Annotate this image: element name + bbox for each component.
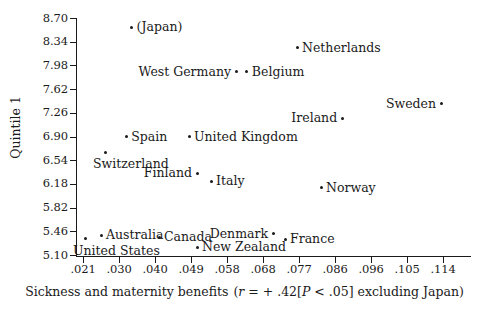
data-point-label: Spain [131,131,167,144]
data-point-marker [103,150,108,155]
y-tick-mark [70,65,76,66]
x-axis-correlation-stat: (r = + .42[P < .05] excluding Japan) [233,284,463,299]
data-point-label: Finland [144,167,192,180]
y-tick-label: 8.70 [28,13,68,25]
y-tick-mark [70,89,76,90]
data-point-marker [129,25,134,30]
y-tick-label: 6.54 [28,155,68,167]
x-tick-label: .021 [63,264,103,276]
data-point-marker [195,245,200,250]
y-tick-label: 7.26 [28,107,68,119]
y-tick-mark [70,160,76,161]
data-point-marker [340,116,345,121]
y-tick-label: 5.10 [28,250,68,262]
data-point-label: Sweden [386,98,436,111]
y-tick-label: 5.46 [28,226,68,238]
data-point-marker [195,171,200,176]
data-point-label: Norway [326,182,376,195]
data-point-marker [295,45,300,50]
y-tick-mark [70,137,76,138]
x-tick-label: .030 [99,264,139,276]
x-tick-label: .105 [387,264,427,276]
data-point-label: United Kingdom [194,131,298,144]
y-tick-label: 8.34 [28,36,68,48]
y-tick-mark [70,113,76,114]
y-tick-label: 7.98 [28,60,68,72]
data-point-label: Italy [216,175,244,188]
x-axis-caption: Sickness and maternity benefits(r = + .4… [0,284,489,299]
data-point-marker [439,101,444,106]
x-tick-label: .096 [351,264,391,276]
y-tick-mark [70,184,76,185]
data-point-marker [319,185,324,190]
data-point-marker [187,134,192,139]
scatter-plot-figure: Quintile 1 8.708.347.987.627.266.906.546… [0,0,489,316]
y-tick-mark [70,42,76,43]
y-tick-label: 5.82 [28,202,68,214]
data-point-label: (Japan) [137,21,183,34]
y-tick-mark [70,18,76,19]
data-point-marker [124,134,129,139]
data-point-marker [234,69,239,74]
data-point-label: Netherlands [302,42,381,55]
y-tick-label: 6.90 [28,131,68,143]
data-point-label: United States [73,245,160,258]
x-tick-label: .077 [279,264,319,276]
data-point-label: Australia [106,229,163,242]
data-point-marker [157,235,162,240]
x-axis-label-text: Sickness and maternity benefits [25,284,228,299]
data-point-marker [271,231,276,236]
data-point-marker [99,233,104,238]
y-tick-mark [70,231,76,232]
data-point-label: West Germany [139,66,231,79]
data-point-label: Ireland [291,112,337,125]
data-point-marker [209,179,214,184]
x-tick-label: .068 [243,264,283,276]
x-tick-label: .114 [423,264,463,276]
x-tick-label: .049 [171,264,211,276]
x-tick-label: .040 [135,264,175,276]
data-point-marker [244,69,249,74]
data-point-marker [83,236,88,241]
x-tick-label: .086 [315,264,355,276]
y-axis-line [76,18,77,256]
x-tick-label: .058 [207,264,247,276]
y-tick-label: 6.18 [28,178,68,190]
y-tick-label: 7.62 [28,84,68,96]
data-point-label: France [290,233,335,246]
y-tick-mark [70,208,76,209]
y-axis-title: Quintile 1 [8,83,23,173]
data-point-label: Belgium [252,66,304,79]
data-point-label: New Zealand [202,241,286,254]
